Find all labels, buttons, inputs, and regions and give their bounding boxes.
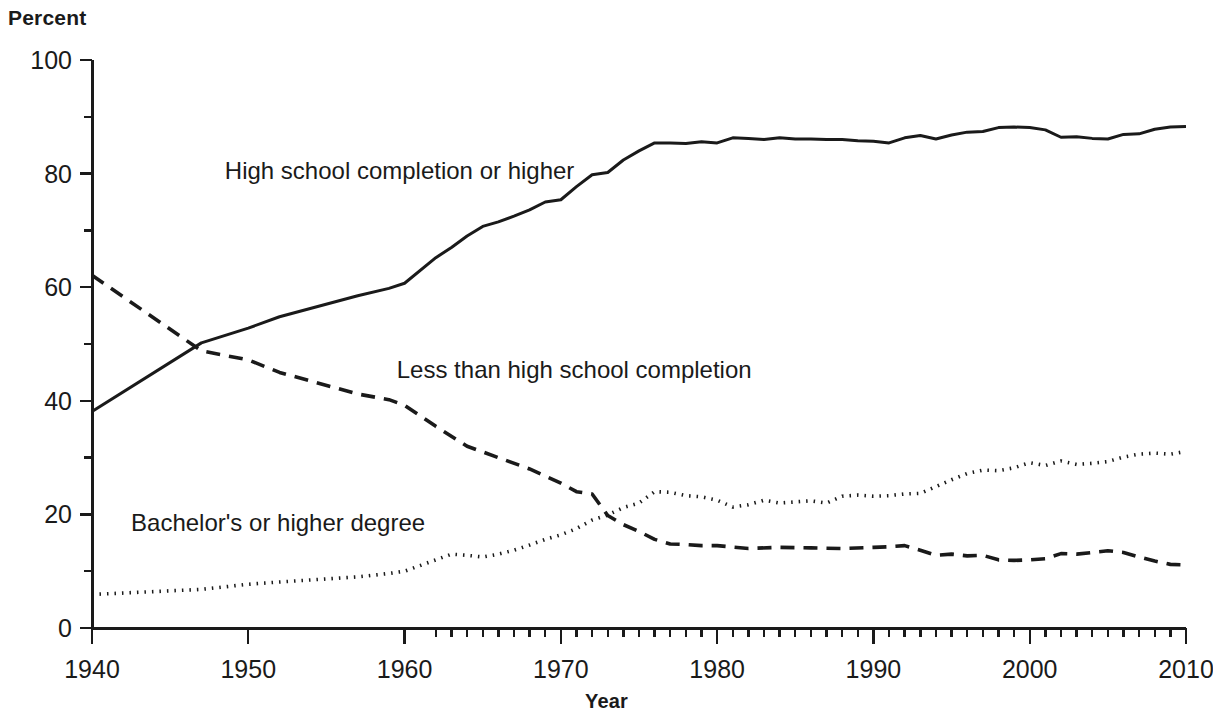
y-tick-label: 60 xyxy=(44,273,72,301)
x-tick-labels: 19401950196019701980199020002010 xyxy=(64,655,1213,683)
x-tick-label: 1940 xyxy=(64,655,120,683)
x-tick-label: 1980 xyxy=(689,655,745,683)
x-tick-label: 1990 xyxy=(846,655,902,683)
series-annotations: High school completion or higherLess tha… xyxy=(131,157,752,536)
series-label-1: High school completion or higher xyxy=(225,157,575,184)
axis-lines xyxy=(92,60,1186,628)
y-tick-label: 20 xyxy=(44,500,72,528)
y-tick-label: 40 xyxy=(44,387,72,415)
x-tick-label: 2010 xyxy=(1158,655,1213,683)
chart-axes xyxy=(92,60,1186,628)
line-chart-plot: 020406080100 194019501960197019801990200… xyxy=(0,0,1213,726)
x-tick-label: 1950 xyxy=(220,655,276,683)
chart-tickmarks xyxy=(80,60,1186,644)
x-tick-label: 2000 xyxy=(1002,655,1058,683)
y-tick-label: 100 xyxy=(30,46,72,74)
x-tick-label: 1960 xyxy=(377,655,433,683)
x-tick-label: 1970 xyxy=(533,655,589,683)
y-tick-label: 80 xyxy=(44,160,72,188)
series-label-3: Bachelor's or higher degree xyxy=(131,509,425,536)
y-tick-label: 0 xyxy=(58,614,72,642)
series-label-2: Less than high school completion xyxy=(397,356,752,383)
chart-container: Percent Year 020406080100 19401950196019… xyxy=(0,0,1213,726)
y-tick-labels: 020406080100 xyxy=(30,46,72,642)
